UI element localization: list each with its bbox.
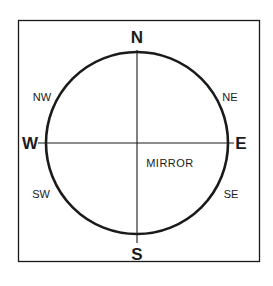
label-northeast: NE [222,92,237,103]
label-east: E [235,135,246,152]
label-north: N [131,29,143,46]
mirror-label: MIRROR [146,158,194,169]
frame-border [19,21,260,262]
label-northwest: NW [33,92,51,103]
label-southwest: SW [32,189,50,200]
compass-mirror-diagram: N S W E NW NE SW SE MIRROR [0,0,273,286]
label-south: S [131,246,142,263]
label-southeast: SE [224,189,239,200]
label-west: W [22,135,38,152]
